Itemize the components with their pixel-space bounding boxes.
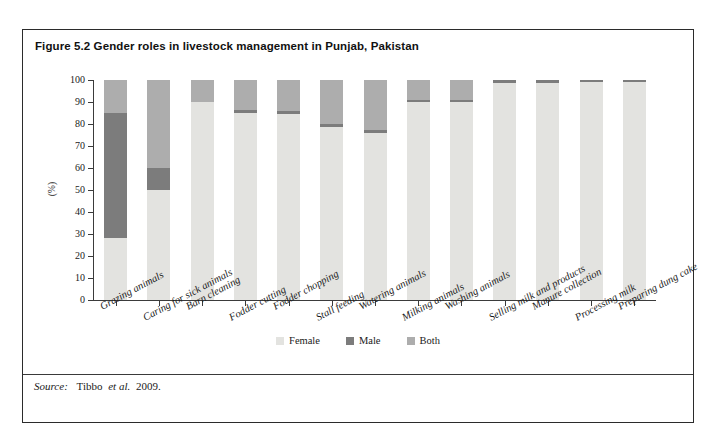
source-etal: et al. — [108, 380, 130, 392]
y-tick — [88, 212, 94, 213]
y-tick-label: 100 — [55, 75, 85, 85]
bar-stack — [407, 80, 430, 300]
bar-segment-male — [147, 168, 170, 190]
legend-item[interactable]: Female — [276, 335, 320, 346]
bar-segment-female — [234, 113, 257, 300]
y-tick-label: 20 — [55, 251, 85, 261]
y-tick — [88, 190, 94, 191]
bar-segment-both — [191, 80, 214, 102]
bar-segment-female — [364, 133, 387, 300]
source-author: Tibbo — [77, 380, 103, 392]
bar-segment-male — [450, 100, 473, 102]
y-tick-label: 60 — [55, 163, 85, 173]
bar-stack — [364, 80, 387, 300]
bar-segment-male — [493, 80, 516, 83]
bar-segment-male — [234, 110, 257, 113]
y-tick — [88, 256, 94, 257]
bar-stack — [234, 80, 257, 300]
legend-label: Both — [420, 335, 440, 346]
bar-stack — [191, 80, 214, 300]
y-tick — [88, 278, 94, 279]
y-tick-label: 0 — [55, 295, 85, 305]
bar-segment-male — [277, 111, 300, 114]
bar-segment-male — [580, 80, 603, 82]
legend-swatch-icon — [407, 337, 415, 345]
bar-segment-both — [234, 80, 257, 110]
source-prefix: Source: — [34, 380, 68, 392]
bar-segment-both — [320, 80, 343, 124]
legend-swatch-icon — [346, 337, 354, 345]
bar-segment-male — [320, 124, 343, 127]
bar-stack — [450, 80, 473, 300]
source-note: Source: Tibbo et al. 2009. — [34, 380, 161, 392]
y-tick — [88, 168, 94, 169]
bar-segment-both — [407, 80, 430, 100]
y-tick-label: 40 — [55, 207, 85, 217]
bar-stack — [104, 80, 127, 300]
y-tick-label: 80 — [55, 119, 85, 129]
y-tick — [88, 300, 94, 301]
y-tick — [88, 146, 94, 147]
bar-segment-female — [450, 102, 473, 300]
bar-stack — [320, 80, 343, 300]
y-tick-label: 50 — [55, 185, 85, 195]
bar-segment-both — [364, 80, 387, 130]
bar-segment-both — [450, 80, 473, 100]
bar-segment-female — [191, 102, 214, 300]
legend-item[interactable]: Both — [407, 335, 440, 346]
y-tick — [88, 80, 94, 81]
bar-segment-both — [147, 80, 170, 168]
bar-segment-male — [104, 113, 127, 238]
bar-segment-female — [536, 83, 559, 300]
bar-segment-female — [623, 82, 646, 300]
bar-stack — [536, 80, 559, 300]
bar-segment-male — [364, 130, 387, 133]
bar-stack — [147, 80, 170, 300]
bar-segment-both — [277, 80, 300, 111]
bar-segment-female — [277, 114, 300, 300]
bar-stack — [277, 80, 300, 300]
bar-segment-male — [623, 80, 646, 82]
y-tick-label: 90 — [55, 97, 85, 107]
figure-frame: Figure 5.2 Gender roles in livestock man… — [22, 29, 694, 423]
bar-stack — [493, 80, 516, 300]
y-tick-label: 70 — [55, 141, 85, 151]
bar-segment-male — [407, 100, 430, 102]
bar-segment-male — [536, 80, 559, 83]
figure-title: Figure 5.2 Gender roles in livestock man… — [35, 40, 419, 52]
source-divider — [23, 374, 693, 375]
legend-label: Female — [289, 335, 320, 346]
y-tick — [88, 234, 94, 235]
y-tick-label: 30 — [55, 229, 85, 239]
y-tick — [88, 124, 94, 125]
source-year: 2009. — [136, 380, 161, 392]
chart-legend: FemaleMaleBoth — [23, 335, 693, 346]
legend-swatch-icon — [276, 337, 284, 345]
y-tick-label: 10 — [55, 273, 85, 283]
bar-stack — [623, 80, 646, 300]
bar-segment-both — [104, 80, 127, 113]
legend-label: Male — [359, 335, 381, 346]
bar-segment-female — [493, 83, 516, 300]
y-tick — [88, 102, 94, 103]
legend-item[interactable]: Male — [346, 335, 381, 346]
